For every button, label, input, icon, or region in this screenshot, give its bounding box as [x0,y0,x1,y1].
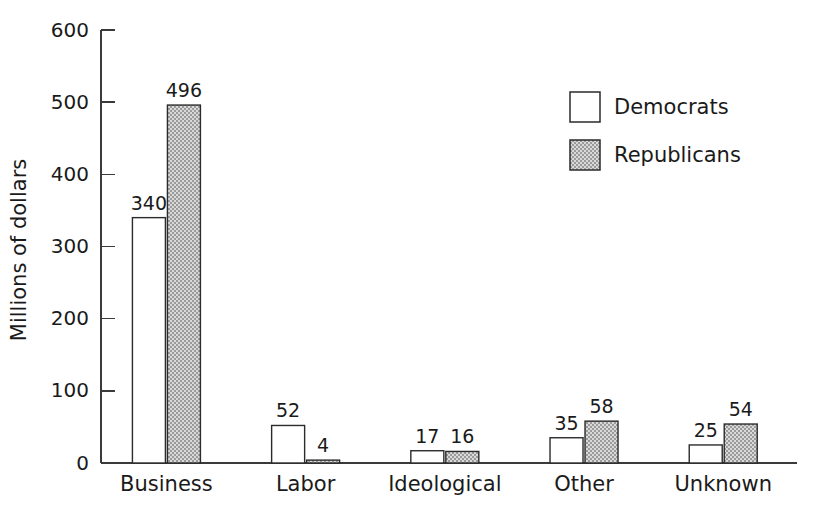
bar-democrats-labor [272,425,305,463]
bar-value-label: 17 [415,425,439,447]
bar-republicans-ideological [446,451,479,463]
category-label-business: Business [120,472,213,496]
legend-swatch-democrats [570,92,600,122]
y-tick-label: 0 [76,451,89,475]
bar-value-label: 16 [450,425,474,447]
y-tick-label: 100 [51,378,89,402]
y-tick-label: 200 [51,306,89,330]
category-labels-layer: BusinessLaborIdeologicalOtherUnknown [120,472,772,496]
bar-democrats-ideological [411,451,444,463]
bar-value-label: 4 [317,434,329,456]
category-label-unknown: Unknown [674,472,771,496]
chart-legend: DemocratsRepublicans [570,92,741,170]
category-label-other: Other [554,472,614,496]
bar-democrats-other [550,438,583,463]
bar-value-label: 58 [589,395,613,417]
bar-value-label: 54 [729,398,753,420]
y-tick-label: 500 [51,90,89,114]
y-axis-title-group: Millions of dollars [7,159,31,341]
category-label-labor: Labor [276,472,336,496]
y-tick-label: 400 [51,162,89,186]
legend-swatch-republicans [570,140,600,170]
category-label-ideological: Ideological [388,472,501,496]
bar-republicans-other [585,421,618,463]
legend-label-democrats: Democrats [614,95,729,119]
y-tick-label: 300 [51,234,89,258]
bar-republicans-labor [307,460,340,463]
y-axis: 0100200300400500600 [51,18,115,475]
y-tick-label: 600 [51,18,89,42]
legend-label-republicans: Republicans [614,143,741,167]
y-axis-title: Millions of dollars [7,159,31,341]
bar-value-label: 35 [554,412,578,434]
bar-value-label: 25 [694,419,718,441]
bar-value-label: 496 [166,79,202,101]
bar-value-label: 340 [131,192,167,214]
bar-chart: 0100200300400500600 34049652417163558255… [0,0,815,507]
bar-democrats-unknown [689,445,722,463]
chart-page: 0100200300400500600 34049652417163558255… [0,0,815,507]
bar-republicans-business [167,105,200,463]
bar-value-label: 52 [276,399,300,421]
bar-republicans-unknown [724,424,757,463]
value-labels-layer: 340496524171635582554 [131,79,753,456]
bar-democrats-business [132,218,165,463]
